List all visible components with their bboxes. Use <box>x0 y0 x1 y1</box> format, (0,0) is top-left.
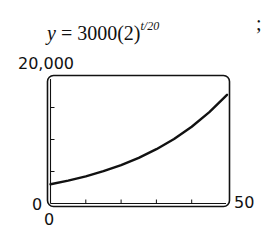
exponential-curve <box>51 95 228 184</box>
plot-area <box>0 0 264 232</box>
plot-frame <box>48 76 230 207</box>
axis-ticks <box>51 108 192 204</box>
